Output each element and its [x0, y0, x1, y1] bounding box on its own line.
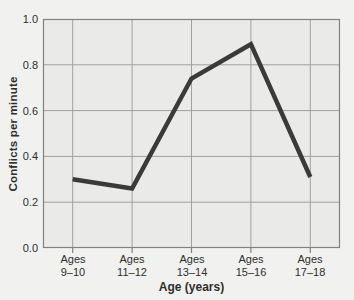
- x-tick-label-ages-9-10: Ages 9–10: [47, 253, 99, 279]
- y-tick-label-0.2: 0.2: [8, 196, 38, 208]
- x-tick-label-ages-11-12: Ages 11–12: [106, 253, 158, 279]
- x-tick-line2: 9–10: [47, 266, 99, 279]
- x-tick-line1: Ages: [47, 253, 99, 266]
- y-axis-title: Conflicts per minute: [7, 76, 19, 191]
- x-tick-line1: Ages: [166, 253, 218, 266]
- y-tick-label-0.0: 0.0: [8, 242, 38, 254]
- x-tick-line2: 15–16: [225, 266, 277, 279]
- conflicts-per-minute-line-chart: Conflicts per minute 1.0 0.8 0.6 0.4 0.2…: [0, 0, 354, 300]
- chart-canvas: [43, 19, 340, 254]
- x-tick-line2: 11–12: [106, 266, 158, 279]
- x-tick-line2: 17–18: [284, 266, 336, 279]
- x-tick-label-ages-15-16: Ages 15–16: [225, 253, 277, 279]
- x-tick-line1: Ages: [106, 253, 158, 266]
- x-tick-label-ages-13-14: Ages 13–14: [166, 253, 218, 279]
- y-tick-label-1.0: 1.0: [8, 13, 38, 25]
- x-tick-line2: 13–14: [166, 266, 218, 279]
- y-tick-label-0.8: 0.8: [8, 59, 38, 71]
- x-axis-title: Age (years): [43, 280, 340, 294]
- x-tick-line1: Ages: [225, 253, 277, 266]
- y-tick-label-0.4: 0.4: [8, 150, 38, 162]
- x-tick-line1: Ages: [284, 253, 336, 266]
- plot-area: [43, 19, 340, 254]
- x-tick-label-ages-17-18: Ages 17–18: [284, 253, 336, 279]
- y-tick-label-0.6: 0.6: [8, 105, 38, 117]
